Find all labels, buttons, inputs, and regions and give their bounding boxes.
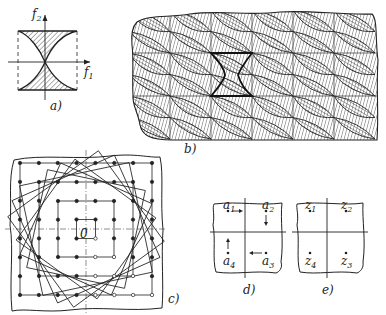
panel-label-b: b) — [184, 142, 197, 156]
arrow-right-icon — [239, 209, 243, 213]
axis-label-f2: f2 — [31, 7, 42, 23]
center-label: 0 — [80, 227, 88, 241]
panel-label-d: d) — [243, 283, 256, 297]
point-label-z4: z4 — [304, 254, 316, 270]
panel-b: b) — [128, 8, 383, 156]
panel-d: a1 a2 a3 a4 d) — [210, 198, 286, 297]
arrow-f1-icon — [84, 60, 90, 65]
arrow-left-icon — [249, 251, 253, 255]
panel-a: f2 f1 a) — [8, 7, 94, 113]
figure-canvas: f2 f1 a) b) — [0, 0, 386, 315]
axis-label-f1: f1 — [83, 65, 94, 81]
point-label-a3: a3 — [262, 254, 274, 270]
panel-label-e: e) — [322, 283, 334, 297]
point-label-z1: z1 — [304, 198, 316, 214]
tiling-region — [128, 8, 383, 144]
point-label-z2: z2 — [340, 198, 352, 214]
point-label-a1: a1 — [223, 198, 235, 214]
arrow-f2-icon — [43, 15, 48, 21]
panel-label-a: a) — [50, 99, 62, 113]
point-label-a4: a4 — [223, 254, 235, 270]
arrow-down-icon — [264, 222, 268, 226]
panel-label-c: c) — [168, 292, 180, 306]
panel-c: 0 c) — [5, 150, 180, 315]
point-label-a2: a2 — [262, 198, 274, 214]
point-label-z3: z3 — [340, 254, 352, 270]
panel-e: z1 z2 z3 z4 e) — [292, 198, 368, 297]
arrow-up-icon — [226, 238, 230, 242]
hourglass-region — [18, 31, 77, 90]
